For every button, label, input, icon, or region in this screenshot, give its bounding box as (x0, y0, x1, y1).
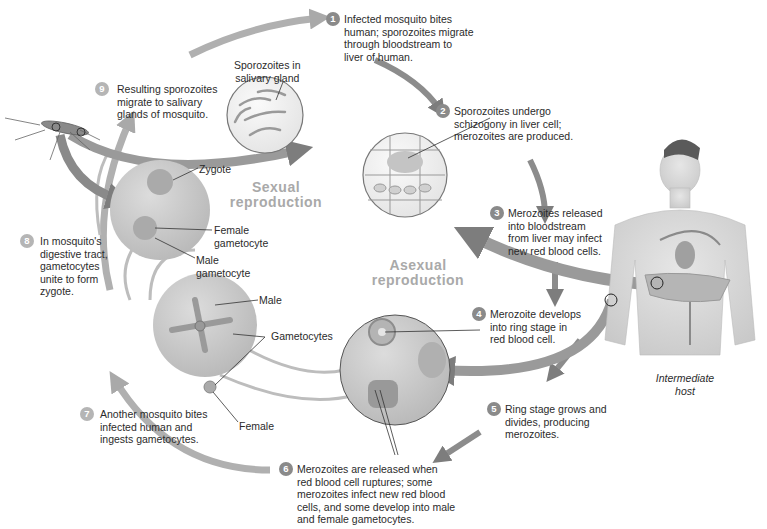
label-zygote: Zygote (199, 163, 231, 176)
step-1-text: Infected mosquito bites human; sporozoit… (344, 13, 514, 63)
step-5-badge: 5 (487, 402, 501, 416)
sexual-reproduction-title: Sexual reproduction (226, 180, 326, 210)
step-9-text: Resulting sporozoites migrate to salivar… (117, 83, 237, 121)
step-6-badge: 6 (279, 462, 293, 476)
step-4-badge: 4 (472, 307, 486, 321)
step-1-badge: 1 (326, 12, 340, 26)
step-7-text: Another mosquito bites infected human an… (100, 408, 240, 446)
label-female: Female (239, 420, 274, 433)
step-2-badge: 2 (436, 104, 450, 118)
step-4-text: Merozoite develops into ring stage in re… (490, 308, 610, 346)
intermediate-host-label: Intermediate host (640, 372, 730, 397)
malaria-life-cycle-diagram: Sexual reproduction Asexual reproduction… (0, 0, 767, 529)
label-male-gametocyte: Male gametocyte (196, 254, 250, 279)
step-8-badge: 8 (20, 234, 34, 248)
step-6-text: Merozoites are released when red blood c… (297, 463, 477, 526)
label-gametocytes: Gametocytes (271, 330, 333, 343)
label-sporozoites-salivary-gland: Sporozoites in salivary gland (234, 59, 301, 84)
step-9-badge: 9 (95, 82, 109, 96)
step-8-text: In mosquito's digestive tract, gametocyt… (40, 235, 130, 298)
label-male: Male (259, 294, 282, 307)
label-female-gametocyte: Female gametocyte (214, 224, 268, 249)
step-3-badge: 3 (490, 206, 504, 220)
step-7-badge: 7 (80, 407, 94, 421)
step-2-text: Sporozoites undergo schizogony in liver … (454, 105, 594, 143)
step-3-text: Merozoites released into bloodstream fro… (508, 207, 638, 257)
step-5-text: Ring stage grows and divides, producing … (505, 403, 645, 441)
asexual-reproduction-title: Asexual reproduction (368, 258, 468, 288)
